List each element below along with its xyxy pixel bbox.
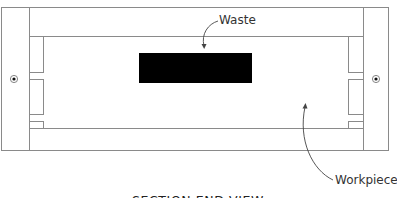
right-pivot-icon <box>372 75 379 82</box>
section-end-view-diagram: Waste Workpiece SECTION END VIEW <box>0 0 397 198</box>
left-pivot-icon <box>10 75 17 82</box>
workpiece-callout: Workpiece <box>303 103 397 187</box>
diagram-caption: SECTION END VIEW <box>132 193 264 198</box>
right-jaw <box>349 8 380 151</box>
waste-callout: Waste <box>202 13 256 49</box>
waste-block <box>139 53 252 83</box>
workpiece-label: Workpiece <box>335 173 397 187</box>
waste-label: Waste <box>219 13 256 27</box>
left-jaw <box>10 8 43 151</box>
